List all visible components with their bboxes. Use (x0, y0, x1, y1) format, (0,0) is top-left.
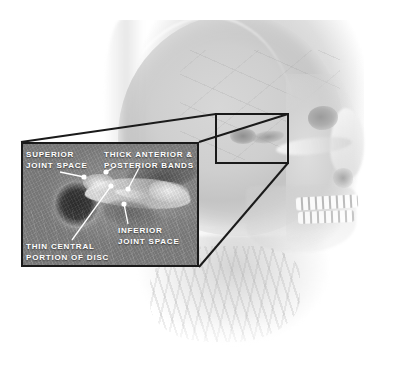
mandibular-teeth (298, 210, 354, 224)
label-thick-anterior-posterior-bands: THICK ANTERIOR & POSTERIOR BANDS (104, 150, 194, 171)
figure-canvas: SUPERIOR JOINT SPACE THICK ANTERIOR & PO… (0, 0, 396, 372)
top-margin (0, 0, 396, 20)
label-thin-central-portion-of-disc: THIN CENTRAL PORTION OF DISC (26, 242, 109, 263)
label-inferior-joint-space: INFERIOR JOINT SPACE (118, 226, 180, 247)
label-superior-joint-space: SUPERIOR JOINT SPACE (26, 150, 88, 171)
bottom-fade (0, 316, 396, 372)
nasal-aperture (333, 168, 353, 188)
